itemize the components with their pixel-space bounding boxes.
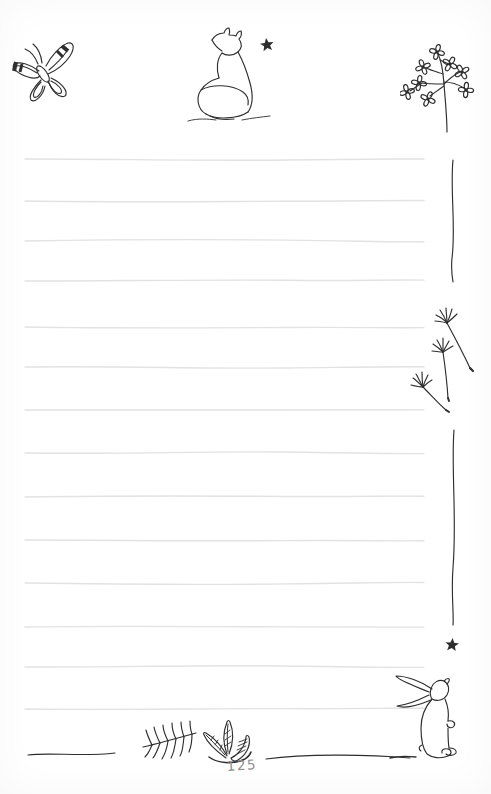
ground-line-right (264, 750, 414, 764)
vine-line-upper (447, 158, 459, 284)
vine-line-lower (447, 428, 461, 628)
butterfly-illustration (10, 38, 82, 112)
page-number: 125 (219, 755, 264, 778)
ground-line-left (26, 748, 118, 760)
star-icon (258, 36, 276, 54)
fern-sprig-illustration (140, 716, 200, 766)
flower-branch-illustration (400, 24, 482, 140)
dandelion-seeds-illustration (406, 306, 482, 420)
notebook-page: 125 (0, 0, 491, 794)
star-icon (443, 636, 461, 654)
